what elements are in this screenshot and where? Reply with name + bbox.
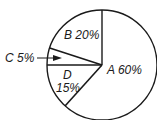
label-d-value: 15% (56, 82, 80, 94)
label-c: C 5% (5, 52, 34, 64)
label-a: A 60% (107, 64, 142, 76)
label-d-name: D (63, 69, 72, 81)
label-b: B 20% (64, 29, 99, 41)
